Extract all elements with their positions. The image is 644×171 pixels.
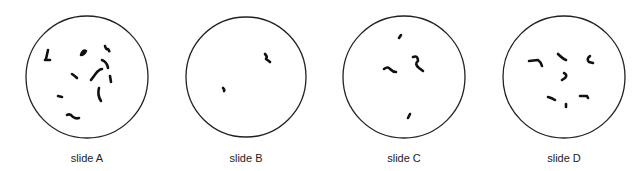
chromosome — [548, 97, 555, 100]
slide-d-label: slide D — [484, 152, 644, 164]
chromosome — [110, 76, 111, 82]
chromosome — [91, 69, 102, 80]
chromosome — [413, 57, 423, 72]
chromosome — [399, 35, 401, 38]
chromosome — [529, 60, 542, 66]
slide-circle — [503, 16, 625, 138]
chromosome — [102, 60, 108, 68]
slide-circle — [343, 16, 465, 138]
slide-a-label: slide A — [7, 152, 167, 164]
chromosome — [588, 56, 593, 63]
chromosome — [98, 88, 101, 101]
slide-circle — [26, 16, 148, 138]
chromosome — [72, 74, 77, 78]
slide-circle — [186, 17, 306, 137]
chromosome — [81, 51, 86, 56]
slide-a — [26, 16, 148, 138]
chromosome — [580, 96, 588, 98]
chromosome — [384, 68, 396, 73]
chromosome — [105, 46, 109, 51]
chromosome — [58, 96, 62, 97]
chromosome — [265, 54, 270, 62]
chromosome — [46, 50, 48, 59]
chromosome — [558, 54, 566, 60]
chromosome — [408, 114, 410, 118]
slides-canvas — [0, 0, 644, 150]
slide-c — [343, 16, 465, 138]
slide-d — [503, 16, 625, 138]
slide-b-label: slide B — [166, 152, 326, 164]
chromosome — [223, 88, 224, 91]
chromosome — [562, 73, 566, 80]
chromosome — [67, 114, 79, 118]
slide-b — [186, 17, 306, 137]
slide-c-label: slide C — [324, 152, 484, 164]
